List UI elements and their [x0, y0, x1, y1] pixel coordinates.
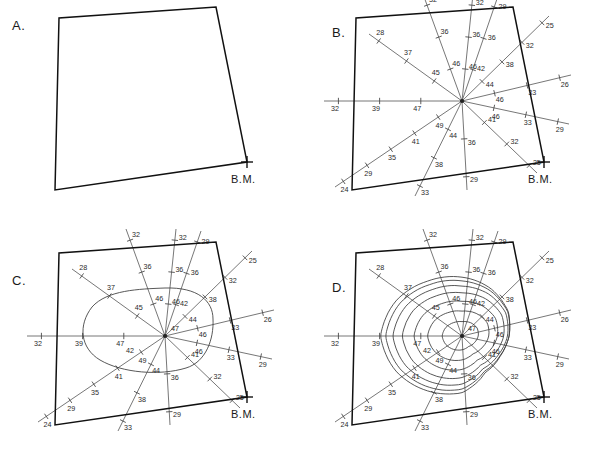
elevation-label: 33 [524, 353, 532, 362]
benchmark-label-b: B.M. [528, 173, 553, 185]
survey-ray-w: 473932 [324, 98, 462, 113]
panel-b-drawing: 4636324236294438322546332646332941322536… [297, 0, 594, 235]
elevation-label: 46 [452, 59, 460, 68]
elevation-label: 42 [126, 346, 134, 355]
panel-c: C. 4636324236294438322546332646332941322… [0, 235, 297, 470]
survey-ray-nnw: 463632 [423, 0, 462, 101]
elevation-label: 44 [486, 80, 494, 89]
survey-ray-ene: 463326 [462, 75, 571, 105]
elevation-label: 28 [376, 28, 384, 37]
elevation-label: 39 [372, 104, 380, 113]
elevation-label: 29 [470, 175, 478, 184]
elevation-label: 26 [264, 315, 272, 324]
benchmark-marker [241, 156, 253, 168]
elevation-label: 38 [506, 295, 514, 304]
survey-ray-nw: 453728 [369, 28, 462, 101]
elevation-label: 39 [75, 339, 83, 348]
elevation-label: 29 [556, 125, 564, 134]
survey-rays-c: 4636324236294438322546332646332941322536… [27, 229, 274, 432]
elevation-label: 37 [404, 48, 412, 57]
elevation-label: 44 [152, 366, 160, 375]
elevation-label: 32 [526, 276, 534, 285]
elevation-label: 46 [496, 95, 504, 104]
elevation-label: 32 [179, 233, 187, 242]
elevation-label: 39 [372, 339, 380, 348]
survey-ray-nnw: 463632 [423, 229, 462, 336]
survey-ray-e: 463329 [462, 101, 569, 134]
elevation-label: 26 [561, 80, 569, 89]
elevation-label: 38 [506, 60, 514, 69]
elevation-label: 32 [229, 276, 237, 285]
elevation-label: 38 [138, 395, 146, 404]
elevation-label: 32 [429, 0, 437, 4]
survey-ray-nnw: 463632 [126, 229, 165, 336]
panel-a: A. B.M. [0, 0, 297, 235]
elevation-label: 32 [429, 230, 437, 239]
elevation-label: 25 [546, 256, 554, 265]
survey-ray-nne: 423629 [462, 0, 506, 101]
elevation-label: 44 [449, 366, 457, 375]
elevation-label: 44 [449, 131, 457, 140]
elevation-label: 41 [115, 372, 123, 381]
survey-rays-b: 4636324236294438322546332646332941322536… [324, 0, 571, 197]
benchmark-label-c: B.M. [231, 408, 256, 420]
survey-ray-nw: 453728 [72, 263, 165, 336]
elevation-label: 36 [488, 268, 496, 277]
elevation-label: 29 [364, 404, 372, 413]
elevation-label: 29 [173, 410, 181, 419]
elevation-label: 29 [556, 360, 564, 369]
elevation-label: 32 [213, 372, 221, 381]
elevation-label: 28 [79, 263, 87, 272]
elevation-label: 47 [116, 339, 124, 348]
elevation-label: 25 [249, 256, 257, 265]
elevation-label: 29 [498, 237, 506, 246]
elevation-label: 37 [404, 283, 412, 292]
elevation-label: 38 [209, 295, 217, 304]
elevation-label: 26 [561, 315, 569, 324]
elevation-label: 38 [435, 395, 443, 404]
elevation-label: 32 [476, 0, 484, 7]
elevation-label: 41 [191, 350, 199, 359]
elevation-label: 47 [413, 104, 421, 113]
elevation-label: 45 [432, 68, 440, 77]
elevation-label: 32 [476, 233, 484, 242]
instrument-station-point [460, 99, 464, 103]
contour-set-d [381, 277, 510, 395]
elevation-label: 44 [189, 315, 197, 324]
elevation-label: 33 [421, 188, 429, 197]
panel-d-drawing: 4636324236294438322546332646332941322536… [297, 235, 594, 470]
elevation-label: 47 [171, 324, 179, 333]
elevation-label: 25 [546, 21, 554, 30]
elevation-label: 36 [175, 265, 183, 274]
elevation-label: 28 [376, 263, 384, 272]
elevation-label: 29 [201, 237, 209, 246]
elevation-label: 24 [341, 185, 349, 194]
elevation-label: 36 [472, 265, 480, 274]
elevation-label: 36 [468, 138, 476, 147]
elevation-label: 29 [470, 410, 478, 419]
survey-rays-d: 4636324236294438322546332646332941322536… [324, 229, 571, 432]
benchmark-label-d: B.M. [528, 408, 553, 420]
survey-ray-nne: 423629 [165, 231, 209, 336]
elevation-label: 24 [44, 420, 52, 429]
survey-ray-w: 473932 [27, 333, 165, 348]
elevation-label: 33 [124, 423, 132, 432]
elevation-label: 29 [67, 404, 75, 413]
elevation-label: 36 [191, 268, 199, 277]
panel-c-drawing: 4636324236294438322546332646332941322536… [0, 235, 297, 470]
survey-ray-ssw: 443833 [415, 101, 462, 197]
elevation-label: 42 [423, 346, 431, 355]
panel-b: B. 4636324236294438322546332646332941322… [297, 0, 594, 235]
elevation-label: 36 [144, 262, 152, 271]
panel-d: D. 4636324236294438322546332646332941322… [297, 235, 594, 470]
elevation-label: 32 [331, 104, 339, 113]
elevation-label: 36 [441, 262, 449, 271]
elevation-label: 33 [421, 423, 429, 432]
elevation-label: 32 [331, 339, 339, 348]
instrument-station-point [163, 334, 167, 338]
elevation-label: 29 [364, 169, 372, 178]
boundary-outline [55, 7, 247, 190]
survey-ray-e: 463329 [462, 336, 569, 369]
elevation-label: 49 [139, 356, 147, 365]
elevation-label: 42 [477, 64, 485, 73]
